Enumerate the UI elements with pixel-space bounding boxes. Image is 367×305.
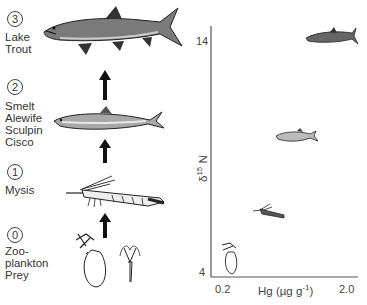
y-tick-max: 14 — [196, 35, 208, 47]
x-label-text: Hg (µg g — [258, 285, 302, 297]
mysis-icon — [66, 176, 164, 207]
zooplankton-icon — [76, 234, 140, 287]
marker-smelt-icon — [276, 128, 318, 141]
marker-lake-trout-icon — [306, 27, 358, 44]
x-axis-label: Hg (µg g-1) — [258, 283, 313, 297]
illustrations — [0, 0, 367, 305]
y-tick-min: 4 — [199, 266, 205, 278]
y-label-delta: δ — [197, 176, 209, 182]
y-label-sup: 15 — [195, 167, 204, 176]
x-tick-max: 2.0 — [339, 283, 354, 295]
x-tick-min: 0.2 — [215, 283, 230, 295]
lake-trout-icon — [44, 6, 182, 55]
arrow-up-icon — [99, 139, 111, 163]
chart-axes — [211, 26, 358, 277]
x-label-close: ) — [309, 285, 313, 297]
y-label-element: N — [197, 155, 209, 163]
arrow-up-icon — [99, 213, 111, 238]
smelt-icon — [54, 106, 164, 129]
marker-zooplankton-icon — [222, 243, 237, 274]
y-axis-label: δ15 N — [195, 142, 209, 182]
marker-mysis-icon — [253, 204, 284, 218]
arrow-up-icon — [99, 70, 111, 100]
